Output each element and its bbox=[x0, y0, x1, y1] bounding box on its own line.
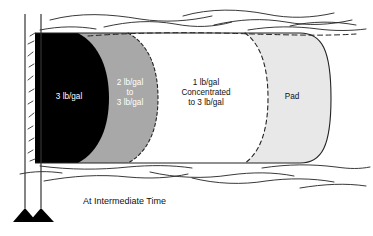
figure-caption: At Intermediate Time bbox=[83, 196, 166, 206]
figure-canvas bbox=[0, 0, 373, 236]
perforation-marks bbox=[28, 33, 35, 161]
casing-foot-left bbox=[13, 208, 25, 222]
rock-strata-upper bbox=[40, 10, 366, 30]
casing-foot-right bbox=[41, 208, 54, 222]
fracture-geometry-figure: 3 lb/gal 2 lb/gal to 3 lb/gal 1 lb/gal C… bbox=[0, 0, 373, 236]
rock-strata-lower bbox=[20, 165, 370, 188]
